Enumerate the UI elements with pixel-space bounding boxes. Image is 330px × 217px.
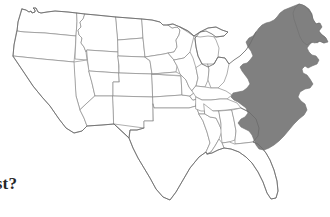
us-map — [0, 0, 330, 217]
question-caption: ast? — [0, 174, 17, 194]
highlighted-region-group — [231, 4, 328, 150]
map-figure: ast? — [0, 0, 330, 217]
state-florida — [222, 142, 278, 199]
state-kansas — [152, 74, 182, 97]
state-indiana — [196, 64, 209, 87]
state-north-dakota — [116, 17, 143, 40]
state-wyoming — [87, 50, 119, 73]
state-south-dakota — [118, 38, 145, 57]
state-montana — [78, 14, 118, 52]
state-colorado — [113, 73, 153, 97]
